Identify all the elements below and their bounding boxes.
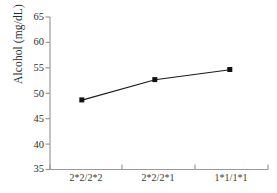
line-chart: Alcohol (mg/dL) 65 60 55 50 45 40 35 (0, 0, 277, 193)
plot-area (0, 0, 277, 193)
x-tick-label-0: 2*2/2*2 (70, 172, 103, 183)
x-tick-label-1: 2*2/2*1 (142, 172, 175, 183)
data-series-alcohol (79, 67, 232, 102)
data-point-marker-1 (152, 77, 157, 82)
x-axis (50, 165, 268, 170)
y-axis (46, 17, 51, 170)
x-tick-label-2: 1*1/1*1 (215, 172, 248, 183)
data-point-marker-0 (79, 97, 84, 102)
data-point-marker-2 (227, 67, 232, 72)
